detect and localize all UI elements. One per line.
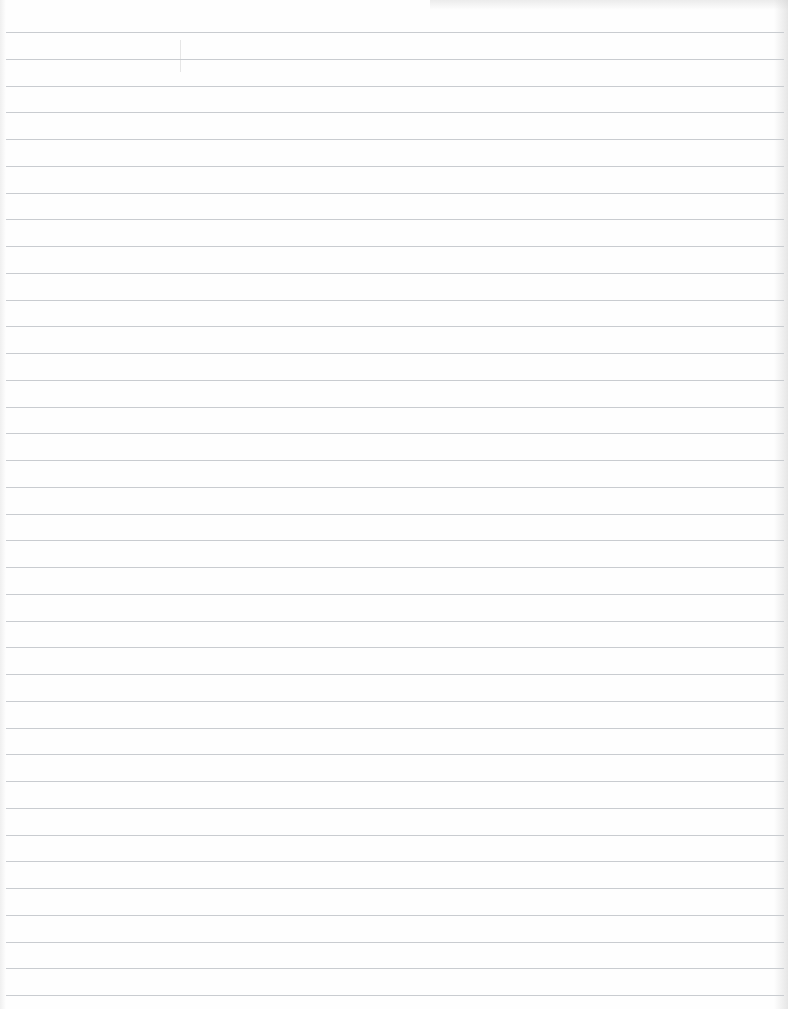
ruled-line: [6, 594, 784, 595]
ruled-line: [6, 781, 784, 782]
ruled-line: [6, 460, 784, 461]
lined-paper-page: [0, 0, 788, 1009]
ruled-line: [6, 995, 784, 996]
ruled-line: [6, 32, 784, 33]
ruled-line: [6, 701, 784, 702]
ruled-line: [6, 647, 784, 648]
ruled-line: [6, 86, 784, 87]
faint-mark: [180, 40, 181, 72]
ruled-line: [6, 407, 784, 408]
scan-shadow-left: [0, 0, 6, 1009]
ruled-line: [6, 540, 784, 541]
ruled-line: [6, 888, 784, 889]
ruled-line: [6, 59, 784, 60]
ruled-line: [6, 861, 784, 862]
ruled-line: [6, 353, 784, 354]
ruled-line: [6, 728, 784, 729]
ruled-line: [6, 326, 784, 327]
ruled-line: [6, 567, 784, 568]
ruled-line: [6, 621, 784, 622]
ruled-line: [6, 139, 784, 140]
ruled-line: [6, 433, 784, 434]
ruled-line: [6, 674, 784, 675]
ruled-line: [6, 193, 784, 194]
ruled-line: [6, 112, 784, 113]
ruled-line: [6, 487, 784, 488]
ruled-line: [6, 300, 784, 301]
ruled-line: [6, 808, 784, 809]
ruled-line: [6, 246, 784, 247]
ruled-line: [6, 166, 784, 167]
scan-shadow-top: [430, 0, 788, 10]
ruled-line: [6, 273, 784, 274]
ruled-line: [6, 514, 784, 515]
ruled-line: [6, 835, 784, 836]
scan-shadow-right: [774, 0, 788, 1009]
ruled-line: [6, 968, 784, 969]
ruled-line: [6, 942, 784, 943]
ruled-line: [6, 754, 784, 755]
ruled-line: [6, 915, 784, 916]
ruled-line: [6, 219, 784, 220]
ruled-line: [6, 380, 784, 381]
